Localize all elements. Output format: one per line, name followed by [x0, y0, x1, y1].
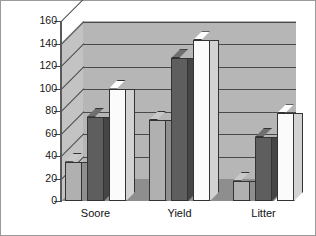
y-tick-label-100: 100 [23, 83, 57, 93]
y-tick-label-0: 0 [23, 195, 57, 205]
bar-side-face [126, 89, 135, 202]
bar-soore-series-2 [87, 117, 104, 201]
bar-front-face [149, 120, 166, 201]
bar-front-face [87, 117, 104, 201]
x-label-soore: Soore [51, 207, 140, 219]
bar-front-face [171, 58, 188, 201]
gridline-120 [83, 44, 296, 45]
bar-yield-series-2 [171, 58, 188, 201]
bar-front-face [277, 113, 294, 201]
bar-yield-series-1 [149, 120, 166, 201]
bar-chart: 160140120100806040200 SooreYieldLitter [0, 0, 316, 236]
y-tick-label-80: 80 [23, 105, 57, 115]
bar-litter-series-2 [255, 137, 272, 201]
y-tick-label-40: 40 [23, 150, 57, 160]
plot-area: 160140120100806040200 SooreYieldLitter [1, 1, 316, 236]
bar-side-face [210, 40, 219, 201]
bar-soore-series-3 [109, 89, 126, 202]
bar-litter-series-3 [277, 113, 294, 201]
y-tick-label-160: 160 [23, 15, 57, 25]
bar-yield-series-3 [193, 40, 210, 201]
bar-side-face [294, 113, 303, 201]
bar-front-face [193, 40, 210, 201]
bar-front-face [233, 181, 250, 201]
bar-front-face [255, 137, 272, 201]
y-tick-label-120: 120 [23, 60, 57, 70]
gridline-140 [83, 22, 296, 23]
bar-soore-series-1 [65, 162, 82, 201]
bar-front-face [65, 162, 82, 201]
y-tick-label-60: 60 [23, 128, 57, 138]
bar-litter-series-1 [233, 181, 250, 201]
y-tick-label-140: 140 [23, 38, 57, 48]
gridline-depth-160 [61, 0, 84, 22]
x-label-litter: Litter [219, 207, 308, 219]
bar-front-face [109, 89, 126, 202]
y-tick-label-20: 20 [23, 173, 57, 183]
x-label-yield: Yield [135, 207, 224, 219]
